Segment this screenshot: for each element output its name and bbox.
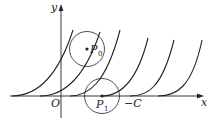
curve-3 (70, 30, 120, 96)
curve-family (12, 30, 202, 96)
svg-text:0: 0 (98, 50, 102, 58)
point-p0 (85, 47, 88, 50)
svg-text:1: 1 (104, 105, 108, 113)
p0-label: P 0 (89, 43, 102, 58)
p1-label: P 1 (95, 98, 108, 113)
curve-2 (40, 32, 100, 96)
curve-5 (130, 40, 174, 96)
svg-text:P: P (95, 98, 104, 111)
curve-4 (102, 38, 148, 96)
svg-text:P: P (89, 43, 98, 56)
y-axis-arrow-icon (59, 4, 64, 11)
y-axis-label: y (50, 1, 58, 14)
curve-1 (12, 30, 73, 96)
x-axis-label: x (201, 96, 208, 109)
origin-label: O (51, 97, 60, 110)
minus-c-label: −C (124, 97, 142, 110)
curve-family-diagram: y x O −C P 0 P 1 (0, 0, 213, 133)
